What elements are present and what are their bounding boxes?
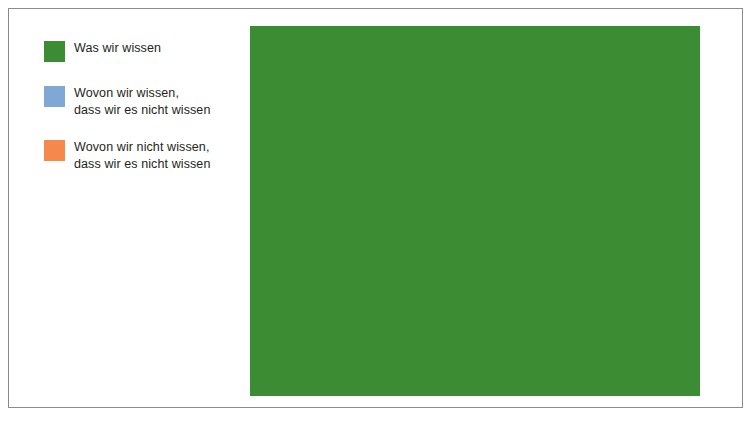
green-swatch-icon — [44, 41, 65, 62]
legend-item-known-unknown: Wovon wir wissen, dass wir es nicht wiss… — [44, 85, 244, 118]
nested-squares-diagram — [250, 26, 700, 396]
legend: Was wir wissen Wovon wir wissen, dass wi… — [44, 40, 244, 172]
known-square — [250, 26, 700, 396]
figure-root: Was wir wissen Wovon wir wissen, dass wi… — [0, 0, 753, 424]
legend-item-known: Was wir wissen — [44, 40, 244, 62]
blue-swatch-icon — [44, 86, 65, 107]
orange-swatch-icon — [44, 140, 65, 161]
legend-label-known: Was wir wissen — [74, 40, 161, 57]
legend-item-unknown-unknown: Wovon wir nicht wissen, dass wir es nich… — [44, 139, 244, 172]
legend-label-known-unknown: Wovon wir wissen, dass wir es nicht wiss… — [74, 85, 210, 118]
legend-label-unknown-unknown: Wovon wir nicht wissen, dass wir es nich… — [74, 139, 210, 172]
